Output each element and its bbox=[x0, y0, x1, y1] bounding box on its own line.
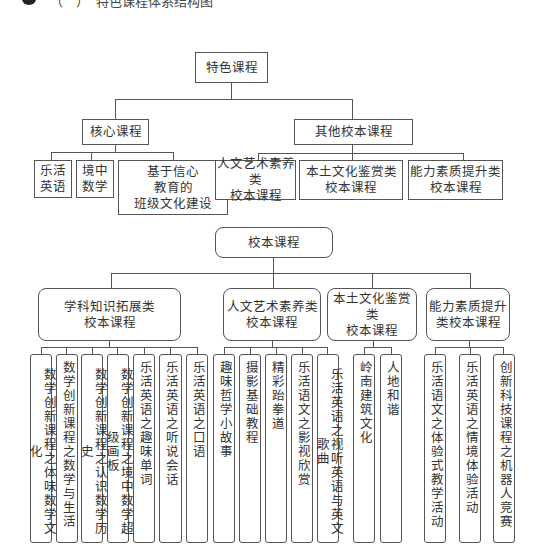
connector bbox=[258, 153, 464, 154]
leaf-course: 趣味哲学小故事 bbox=[213, 354, 235, 543]
node-special-courses: 特色课程 bbox=[195, 52, 268, 83]
node-label: 本土文化鉴赏类 校本课程 bbox=[306, 164, 397, 196]
category-subject-knowledge: 学科知识拓展类 校本课程 bbox=[38, 288, 181, 341]
node-label: 其他校本课程 bbox=[315, 124, 393, 140]
connector bbox=[173, 152, 174, 160]
connector bbox=[144, 347, 145, 354]
category-humanities-arts: 人文艺术素养类 校本课程 bbox=[223, 288, 321, 341]
connector bbox=[111, 273, 471, 274]
node-label: 学科知识拓展类 校本课程 bbox=[64, 299, 155, 331]
leaf-label: 乐活语文之影视欣赏 bbox=[295, 361, 309, 487]
connector bbox=[463, 153, 464, 160]
node-label: 核心课程 bbox=[90, 124, 142, 140]
leaf-label: 乐活英语之视听英语与英文歌曲 bbox=[314, 361, 342, 542]
connector bbox=[470, 273, 471, 288]
leaf-label: 乐活英语之听说会话 bbox=[164, 361, 178, 487]
connector bbox=[352, 99, 353, 119]
node-class-culture: 基于信心 教育的 班级文化建设 bbox=[118, 160, 228, 215]
leaf-course: 数学创新课程之数学与生活 bbox=[56, 354, 78, 543]
node-label: 特色课程 bbox=[206, 60, 258, 76]
cut-off-heading: （ ） 特色课程体系结构图 bbox=[50, 0, 213, 10]
node-label: 校本课程 bbox=[248, 235, 300, 251]
leaf-label: 乐活英语之趣味单词 bbox=[137, 361, 151, 487]
leaf-label: 摄影基础教程 bbox=[243, 361, 257, 445]
leaf-course: 数学创新课程之体味数学文化 bbox=[30, 354, 52, 543]
connector bbox=[391, 347, 392, 354]
node-ability-quality: 能力素质提升类 校本课程 bbox=[408, 160, 503, 200]
node-label: 本土文化鉴赏类 校本课程 bbox=[328, 291, 416, 339]
connector bbox=[250, 347, 251, 354]
leaf-label: 乐活英语之口语 bbox=[190, 361, 204, 459]
node-label: 境中 数学 bbox=[82, 163, 108, 195]
bullet-icon bbox=[22, 0, 36, 5]
node-label: 基于信心 教育的 班级文化建设 bbox=[134, 164, 212, 212]
connector bbox=[66, 347, 67, 354]
connector bbox=[41, 347, 198, 348]
leaf-course: 乐活语文之体验式教学活动 bbox=[424, 354, 446, 543]
connector bbox=[273, 273, 274, 288]
connector bbox=[117, 347, 118, 354]
leaf-label: 数学创新课程之认识数学历史 bbox=[78, 361, 106, 542]
leaf-course: 精彩跆拳道 bbox=[265, 354, 287, 543]
connector bbox=[435, 347, 436, 354]
connector bbox=[302, 347, 303, 354]
connector bbox=[115, 99, 116, 119]
category-ability-quality: 能力素质提升 类校本课程 bbox=[426, 288, 510, 341]
leaf-course: 摄影基础教程 bbox=[239, 354, 261, 543]
connector bbox=[111, 273, 112, 288]
leaf-label: 精彩跆拳道 bbox=[269, 361, 283, 431]
connector bbox=[91, 152, 92, 160]
leaf-course: 乐活英语之口语 bbox=[186, 354, 208, 543]
node-jingzhong-math: 境中 数学 bbox=[76, 160, 114, 198]
connector bbox=[276, 347, 277, 354]
connector bbox=[51, 152, 174, 153]
connector bbox=[372, 273, 373, 288]
node-local-culture: 本土文化鉴赏类 校本课程 bbox=[299, 160, 403, 200]
leaf-label: 乐活英语之情境体验活动 bbox=[463, 361, 477, 515]
connector bbox=[51, 152, 52, 160]
node-core-courses: 核心课程 bbox=[82, 119, 149, 145]
leaf-course: 乐活英语之情境体验活动 bbox=[459, 354, 481, 543]
leaf-course: 岭南建筑文化 bbox=[353, 354, 375, 543]
leaf-course: 人地和谐 bbox=[380, 354, 402, 543]
node-humanities-arts: 人文艺术素养类 校本课程 bbox=[215, 160, 296, 200]
leaf-label: 创新科技课程之机器人竞赛 bbox=[497, 361, 511, 529]
node-label: 人文艺术素养类 校本课程 bbox=[216, 156, 295, 204]
node-lehuo-english: 乐活 英语 bbox=[34, 160, 72, 198]
node-label: 人文艺术素养类 校本课程 bbox=[227, 299, 318, 331]
leaf-course: 创新科技课程之机器人竞赛 bbox=[493, 354, 515, 543]
connector bbox=[327, 347, 328, 354]
leaf-label: 数学创新课程之境中数学超级画板 bbox=[104, 361, 132, 542]
connector bbox=[115, 99, 353, 100]
node-label: 乐活 英语 bbox=[40, 163, 66, 195]
leaf-label: 数学创新课程之体味数学文化 bbox=[27, 361, 55, 542]
connector bbox=[41, 347, 42, 354]
connector bbox=[170, 347, 171, 354]
leaf-course: 乐活英语之听说会话 bbox=[159, 354, 182, 543]
connector bbox=[92, 347, 93, 354]
node-label: 能力素质提升类 校本课程 bbox=[410, 164, 501, 196]
course-structure-diagram: （ ） 特色课程体系结构图 特色课程 核心课程 乐活 英语 境中 数学 基于信心… bbox=[0, 0, 539, 547]
leaf-label: 乐活语文之体验式教学活动 bbox=[428, 361, 442, 529]
node-school-based-courses: 校本课程 bbox=[215, 227, 333, 258]
node-other-courses: 其他校本课程 bbox=[294, 119, 413, 145]
leaf-course: 乐活英语之视听英语与英文歌曲 bbox=[317, 354, 339, 543]
connector bbox=[364, 347, 365, 354]
connector bbox=[273, 258, 274, 273]
leaf-course: 乐活英语之趣味单词 bbox=[133, 354, 155, 543]
leaf-course: 数学创新课程之境中数学超级画板 bbox=[107, 354, 129, 543]
connector bbox=[352, 153, 353, 160]
leaf-label: 人地和谐 bbox=[384, 361, 398, 417]
leaf-label: 岭南建筑文化 bbox=[357, 361, 371, 445]
leaf-course: 乐活语文之影视欣赏 bbox=[291, 354, 313, 543]
category-local-culture: 本土文化鉴赏类 校本课程 bbox=[327, 288, 417, 341]
connector bbox=[197, 347, 198, 354]
leaf-course: 数学创新课程之认识数学历史 bbox=[81, 354, 103, 543]
leaf-label: 数学创新课程之数学与生活 bbox=[60, 361, 74, 529]
connector bbox=[224, 347, 225, 354]
connector bbox=[364, 347, 392, 348]
connector bbox=[503, 347, 504, 354]
connector bbox=[231, 83, 232, 100]
leaf-label: 趣味哲学小故事 bbox=[217, 361, 231, 459]
node-label: 能力素质提升 类校本课程 bbox=[429, 299, 507, 331]
